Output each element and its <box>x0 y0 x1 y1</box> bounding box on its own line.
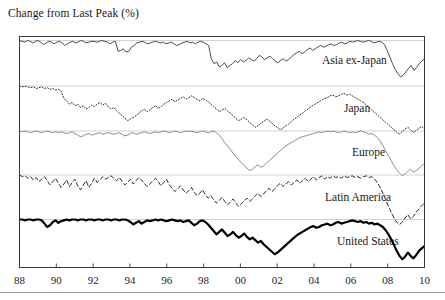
x-axis-ticks <box>20 264 425 268</box>
x-tick-label-96: 96 <box>161 274 173 286</box>
x-tick-label-06: 06 <box>345 274 357 286</box>
chart-figure: Change from Last Peak (%) 88909294969800… <box>0 0 445 300</box>
series-labels: Asia ex-JapanJapanEuropeLatin AmericaUni… <box>322 54 399 247</box>
series-label-latin-america: Latin America <box>325 191 391 203</box>
x-tick-label-08: 08 <box>382 274 394 286</box>
x-tick-label-00: 00 <box>235 274 247 286</box>
series-label-europe: Europe <box>352 146 385 159</box>
x-tick-label-92: 92 <box>88 274 99 286</box>
x-tick-label-04: 04 <box>309 274 321 286</box>
chart-plot-area: 889092949698000204060810 Asia ex-JapanJa… <box>0 0 445 300</box>
x-tick-label-88: 88 <box>14 274 26 286</box>
series-label-japan: Japan <box>344 102 370 115</box>
x-tick-label-02: 02 <box>272 274 283 286</box>
x-tick-label-10: 10 <box>419 274 431 286</box>
x-tick-label-94: 94 <box>124 274 136 286</box>
bottom-rule <box>0 292 445 293</box>
x-tick-label-90: 90 <box>51 274 63 286</box>
series-label-united-states: United States <box>337 235 399 247</box>
series-label-asia-ex-japan: Asia ex-Japan <box>322 54 387 67</box>
x-tick-label-98: 98 <box>198 274 210 286</box>
x-axis-tick-labels: 889092949698000204060810 <box>14 274 431 286</box>
